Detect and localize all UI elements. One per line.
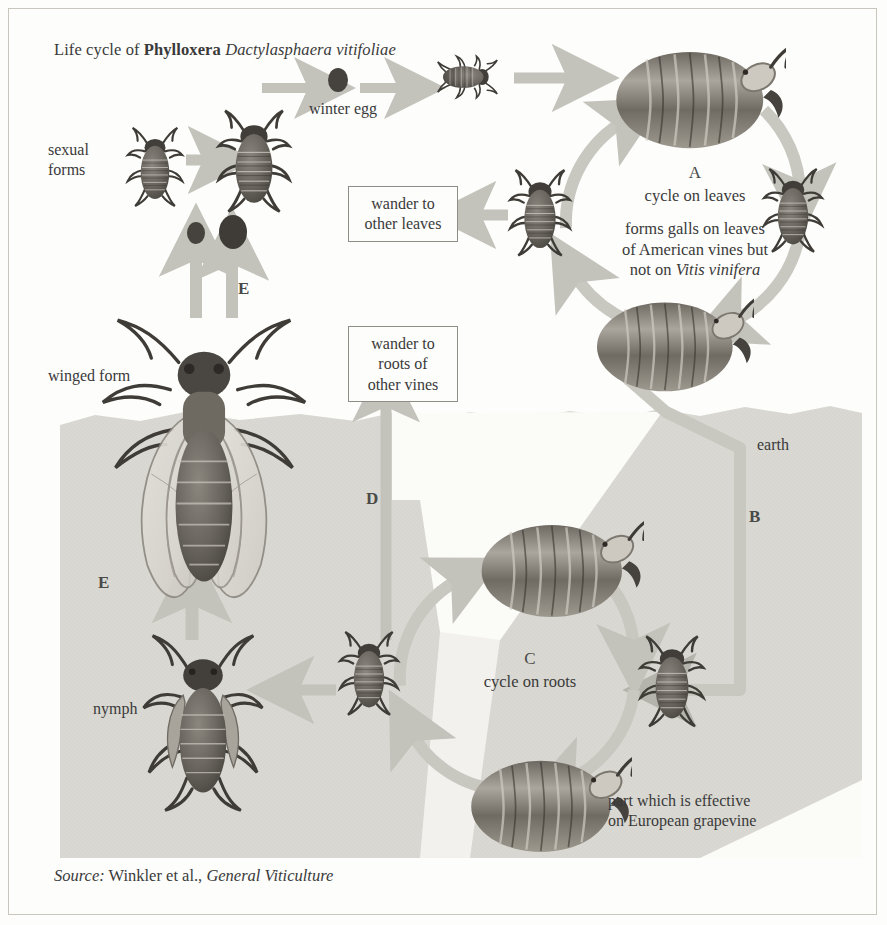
stage-a-line2: forms galls on leaves xyxy=(576,219,814,240)
sexual-forms-line2: forms xyxy=(48,160,89,180)
stage-a-species: Vitis vinifera xyxy=(676,260,760,279)
winter-egg-large xyxy=(219,215,247,249)
stage-letter-e-upper: E xyxy=(238,278,249,299)
wander-leaves-line1: wander to xyxy=(359,194,447,214)
source-authors: Winkler et al., xyxy=(105,866,207,885)
stage-a-line4: not on Vitis vinifera xyxy=(576,260,814,281)
source-label: Source: xyxy=(54,866,105,885)
title-species: Dactylasphaera vitifoliae xyxy=(225,40,396,59)
stage-letter-d: D xyxy=(366,488,378,509)
stage-a-line3: of American vines but xyxy=(576,240,814,261)
source-title: General Viticulture xyxy=(206,866,333,885)
insect-illustrations xyxy=(0,0,887,925)
title-prefix: Life cycle of xyxy=(54,40,144,59)
stage-a-line1: cycle on leaves xyxy=(576,186,814,207)
label-winged-form: winged form xyxy=(48,366,130,386)
label-sexual-forms: sexual forms xyxy=(48,140,89,180)
note-effective-part: part which is effective on European grap… xyxy=(608,791,756,831)
figure-source: Source: Winkler et al., General Viticult… xyxy=(54,866,333,887)
label-nymph: nymph xyxy=(93,699,137,719)
stage-a-text: A cycle on leaves forms galls on leaves … xyxy=(576,162,814,281)
winter-egg-dot xyxy=(328,68,348,92)
stage-a-line4-plain: not on xyxy=(630,260,676,279)
label-winter-egg: winter egg xyxy=(309,99,377,119)
effective-line2: on European grapevine xyxy=(608,811,756,831)
effective-line1: part which is effective xyxy=(608,791,756,811)
label-earth: earth xyxy=(757,435,789,455)
box-wander-other-leaves[interactable]: wander to other leaves xyxy=(348,186,458,242)
wander-roots-line1: wander to xyxy=(359,334,447,354)
stage-letter-e-lower: E xyxy=(98,572,109,593)
stage-c-text: C cycle on roots xyxy=(430,648,630,693)
stage-letter-a: A xyxy=(576,162,814,183)
stage-letter-c: C xyxy=(430,648,630,669)
title-genus: Phylloxera xyxy=(144,40,221,59)
box-wander-roots-other-vines[interactable]: wander to roots of other vines xyxy=(348,326,458,402)
figure-canvas: Life cycle of Phylloxera Dactylasphaera … xyxy=(0,0,887,925)
small-egg xyxy=(187,222,205,244)
wander-roots-line3: other vines xyxy=(359,375,447,395)
figure-title: Life cycle of Phylloxera Dactylasphaera … xyxy=(54,40,396,61)
wander-roots-line2: roots of xyxy=(359,354,447,374)
sexual-forms-line1: sexual xyxy=(48,140,89,160)
wander-leaves-line2: other leaves xyxy=(359,214,447,234)
stage-letter-b: B xyxy=(749,506,760,527)
stage-c-line1: cycle on roots xyxy=(430,672,630,693)
